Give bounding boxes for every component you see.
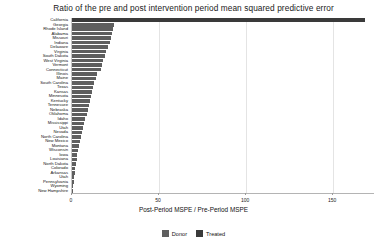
- legend-label: Treated: [206, 231, 225, 237]
- legend-item-treated: Treated: [196, 230, 225, 237]
- y-axis-labels: CaliforniaGeorgiaRhode IslandAlabamaMiss…: [71, 18, 374, 193]
- x-tick-mark: [71, 193, 72, 195]
- legend-label: Donor: [172, 231, 187, 237]
- legend-swatch-icon: [196, 230, 203, 237]
- chart-title: Ratio of the pre and post intervention p…: [0, 3, 387, 13]
- x-tick-mark: [245, 193, 246, 195]
- x-tick-label: 150: [317, 197, 347, 203]
- x-tick-label: 0: [56, 197, 86, 203]
- x-tick-label: 50: [143, 197, 173, 203]
- chart-legend: DonorTreated: [0, 230, 387, 237]
- y-axis-tick-label: New Hampshire: [0, 189, 68, 193]
- x-tick-mark: [158, 193, 159, 195]
- x-tick-mark: [332, 193, 333, 195]
- x-axis-label: Post-Period MSPE / Pre-Period MSPE: [0, 206, 387, 213]
- legend-swatch-icon: [162, 230, 169, 237]
- chart-container: Ratio of the pre and post intervention p…: [0, 0, 387, 250]
- x-tick-label: 100: [230, 197, 260, 203]
- legend-item-donor: Donor: [162, 230, 187, 237]
- x-axis-line: [71, 193, 374, 194]
